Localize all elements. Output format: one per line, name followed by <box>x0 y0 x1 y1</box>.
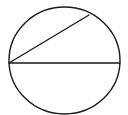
circle-diagram <box>0 0 128 115</box>
circle-outline <box>9 7 120 114</box>
diagram-canvas <box>0 0 128 115</box>
chord-line <box>9 15 89 63</box>
